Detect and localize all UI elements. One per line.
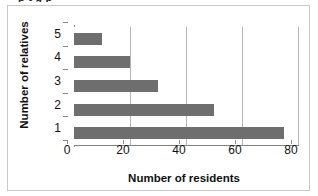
x-tick-mark-40	[179, 140, 180, 144]
plot-area	[74, 27, 298, 145]
y-tick-label-5: 5	[37, 28, 61, 40]
x-tick-label-20: 20	[103, 143, 143, 157]
x-axis-title: Number of residents	[68, 172, 300, 184]
y-tick-mark-2	[63, 69, 68, 70]
gridline-80	[298, 27, 299, 145]
y-tick-label-2: 2	[37, 99, 61, 111]
y-tick-mark-4	[63, 116, 68, 117]
bar-1	[74, 127, 284, 139]
x-tick-label-0: 0	[47, 143, 87, 157]
x-tick-mark-20	[123, 140, 124, 144]
y-tick-label-4: 4	[37, 51, 61, 63]
x-tick-mark-80	[291, 140, 292, 144]
x-tick-mark-60	[235, 140, 236, 144]
y-tick-label-1: 1	[37, 122, 61, 134]
bar-5	[74, 33, 102, 45]
y-tick-mark-1	[63, 46, 68, 47]
bar-3	[74, 80, 158, 92]
y-axis-title: Number of relatives	[18, 10, 30, 140]
y-tick-mark-0	[63, 22, 68, 23]
clipped-caption-text: p t g p	[18, 0, 298, 2]
chart-figure-frame: Number of relatives Number of residents …	[7, 5, 310, 191]
x-tick-label-60: 60	[215, 143, 255, 157]
y-tick-label-3: 3	[37, 75, 61, 87]
bar-2	[74, 104, 214, 116]
x-tick-mark-0	[67, 140, 68, 144]
x-tick-label-40: 40	[159, 143, 199, 157]
bar-4	[74, 56, 130, 68]
y-tick-mark-3	[63, 93, 68, 94]
x-tick-label-80: 80	[271, 143, 311, 157]
